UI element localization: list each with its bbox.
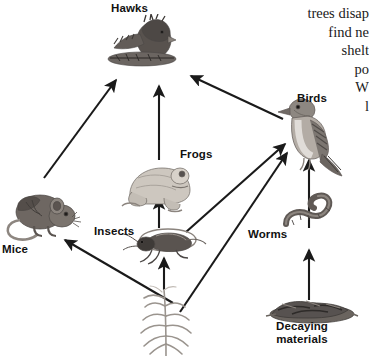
truncated-body-text: trees disap find ne shelt po W l xyxy=(249,4,369,116)
body-text-line-5: W xyxy=(249,78,369,97)
label-decaying-materials: Decaying materials xyxy=(276,320,328,345)
label-mice: Mice xyxy=(2,243,28,256)
food-web-figure: Hawks Mice Frogs Insects Birds Worms Dec… xyxy=(0,0,369,356)
body-text-line-4: po xyxy=(249,60,369,79)
label-insects: Insects xyxy=(94,225,134,238)
body-text-line-3: shelt xyxy=(249,41,369,60)
body-text-line-1: trees disap xyxy=(249,4,369,23)
label-frogs: Frogs xyxy=(180,148,212,161)
label-worms: Worms xyxy=(248,228,287,241)
body-text-line-6: l xyxy=(249,97,369,116)
body-text-line-2: find ne xyxy=(249,23,369,42)
label-hawks: Hawks xyxy=(111,2,148,15)
